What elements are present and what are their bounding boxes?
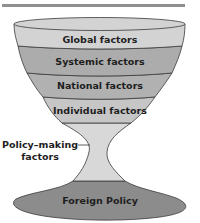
policy-making-stem (62, 123, 131, 181)
funnel-rim (14, 18, 185, 31)
systemic-factors-label: Systemic factors (55, 56, 145, 67)
foreign-policy-funnel-diagram: Global factors Systemic factors National… (0, 0, 200, 223)
individual-factors-label: Individual factors (53, 105, 147, 116)
policy-making-label-line1: Policy–making (2, 139, 78, 150)
policy-making-label-line2: factors (21, 151, 59, 162)
national-factors-label: National factors (57, 80, 143, 91)
foreign-policy-label: Foreign Policy (62, 195, 139, 206)
global-factors-label: Global factors (63, 34, 138, 45)
